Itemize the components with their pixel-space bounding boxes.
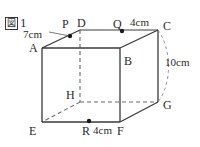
hidden-edges-group xyxy=(42,30,158,122)
visible-edges-group xyxy=(42,30,158,122)
edge-F-G xyxy=(120,102,158,122)
vertex-label-C: C xyxy=(163,20,171,32)
point-R-dot xyxy=(87,119,91,123)
leader-7cm xyxy=(49,32,70,36)
vertex-label-E: E xyxy=(29,125,36,137)
point-P-dot xyxy=(68,34,72,38)
vertex-label-F: F xyxy=(117,125,124,137)
marked-points-group xyxy=(68,29,124,123)
vertex-label-G: G xyxy=(163,99,172,111)
dimension-label-10cm: 10cm xyxy=(165,57,189,68)
vertex-label-B: B xyxy=(124,55,132,67)
point-label-R: R xyxy=(82,125,90,137)
edge-H-E xyxy=(42,102,80,122)
point-label-Q: Q xyxy=(113,18,122,30)
dimension-label-4cm-bottom: 4cm xyxy=(93,125,112,136)
edge-B-C xyxy=(120,30,158,48)
dimension-label-7cm: 7cm xyxy=(23,29,42,40)
point-label-P: P xyxy=(62,18,69,30)
edge-A-D xyxy=(42,30,80,48)
vertex-label-D: D xyxy=(77,17,86,29)
dimension-label-4cm-top: 4cm xyxy=(130,17,149,28)
vertex-label-A: A xyxy=(29,42,38,54)
figure-container: 図 1 xyxy=(0,0,200,147)
vertex-label-H: H xyxy=(66,89,75,101)
